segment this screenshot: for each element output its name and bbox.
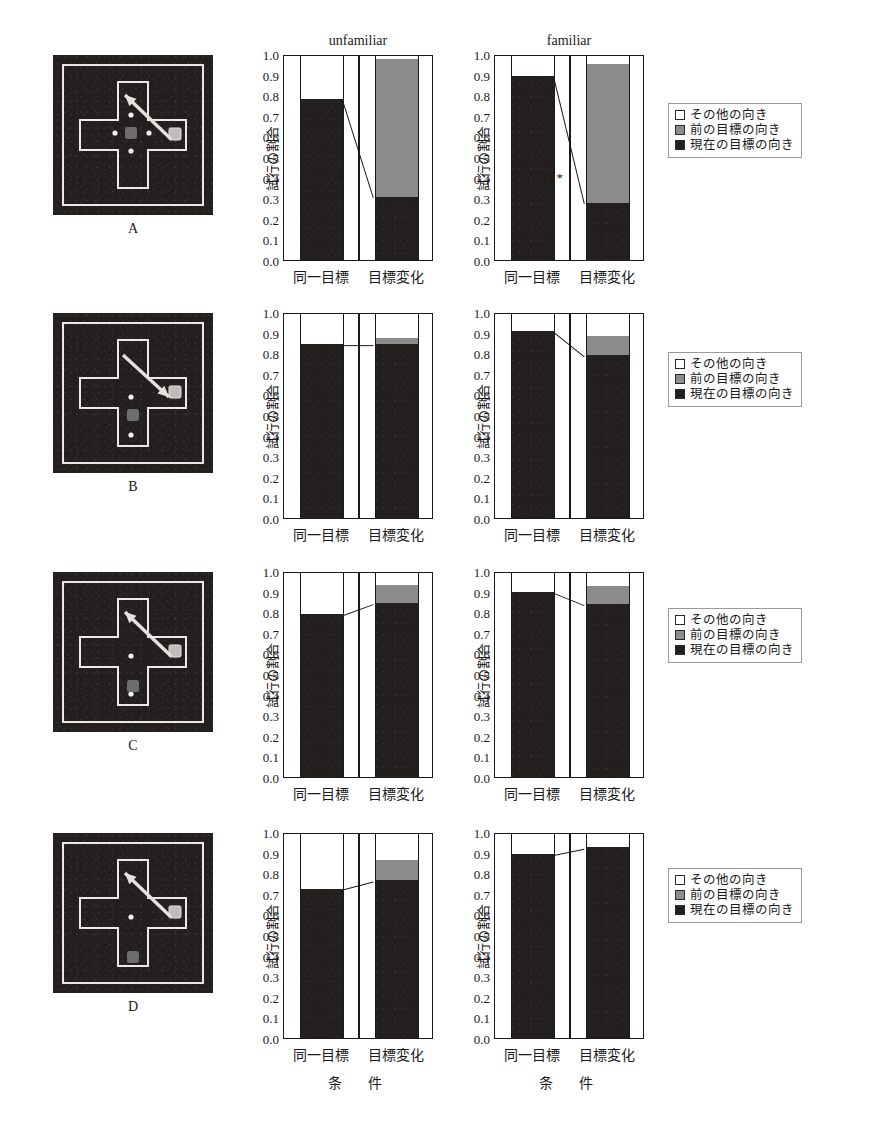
legend-label: 現在の目標の向き [690,138,794,153]
stacked-bar [300,55,344,260]
y-tick-label: 0.3 [263,451,279,464]
food-dot [128,691,133,696]
y-tick-label: 0.4 [263,950,279,963]
stacked-bar [375,313,419,518]
maze-panel-D: D [48,833,218,1015]
bar-outline [586,313,630,518]
group-divider [569,56,571,260]
y-tick-label: 0.9 [474,586,490,599]
y-tick-label: 0.8 [474,90,490,103]
legend-swatch-previous [675,374,685,384]
y-tick-label: 0.2 [263,730,279,743]
stacked-bar [300,572,344,777]
y-tick-label: 0.2 [474,991,490,1004]
y-tick-label: 1.0 [263,307,279,320]
x-tick-label: 目標変化 [579,261,635,286]
stacked-bar [586,572,630,777]
legend-swatch-previous [675,125,685,135]
legend-label: 現在の目標の向き [690,643,794,658]
legend-item: その他の向き [675,357,794,372]
y-tick-label: 0.4 [263,172,279,185]
direction-arrow [125,612,171,656]
maze-panel-label-A: A [48,221,218,237]
chart-B-unfamiliar: 試行の割合0.00.10.20.30.40.50.60.70.80.91.0同一… [283,313,433,519]
y-tick-label: 0.7 [263,627,279,640]
chart-C-familiar: 試行の割合0.00.10.20.30.40.50.60.70.80.91.0同一… [494,572,644,778]
x-tick-label: 同一目標 [504,778,560,803]
y-tick-label: 0.8 [474,607,490,620]
y-tick-label: 0.1 [263,751,279,764]
legend-item: 前の目標の向き [675,888,794,903]
direction-arrow [125,873,171,917]
bar-outline [511,313,555,518]
figure-page: ABCDunfamiliar試行の割合0.00.10.20.30.40.50.6… [0,0,869,1124]
group-divider [358,834,360,1038]
goal-box-marker [169,386,181,398]
y-tick-label: 1.0 [263,49,279,62]
y-tick-label: 0.6 [263,389,279,402]
y-tick-label: 0.7 [263,110,279,123]
food-dot [128,914,133,919]
stacked-bar [375,572,419,777]
legend-item: 前の目標の向き [675,123,794,138]
legend-swatch-other [675,875,685,885]
y-tick-label: 0.2 [263,471,279,484]
chart-A-unfamiliar: unfamiliar試行の割合0.00.10.20.30.40.50.60.70… [283,55,433,261]
bar-outline [511,55,555,260]
bar-outline [300,55,344,260]
y-tick-label: 0.0 [474,255,490,268]
y-axis-ticks: 0.00.10.20.30.40.50.60.70.80.91.0 [253,313,281,519]
y-tick-label: 0.0 [474,1033,490,1046]
y-tick-label: 0.8 [474,348,490,361]
start-box-marker [125,127,137,139]
legend-item: 現在の目標の向き [675,643,794,658]
start-box-marker [127,951,139,963]
stacked-bar [511,313,555,518]
y-tick-label: 0.0 [263,772,279,785]
y-tick-label: 0.2 [263,991,279,1004]
y-tick-label: 0.0 [263,255,279,268]
y-axis-ticks: 0.00.10.20.30.40.50.60.70.80.91.0 [464,572,492,778]
y-axis-ticks: 0.00.10.20.30.40.50.60.70.80.91.0 [253,572,281,778]
legend-swatch-other [675,615,685,625]
stacked-bar [300,313,344,518]
y-tick-label: 0.5 [474,930,490,943]
y-tick-label: 0.1 [474,1012,490,1025]
maze-panel-label-C: C [48,738,218,754]
y-tick-label: 1.0 [474,307,490,320]
x-tick-label: 同一目標 [504,261,560,286]
maze-arena-C [53,572,213,732]
bar-outline [586,55,630,260]
bar-outline [586,572,630,777]
y-tick-label: 0.0 [263,1033,279,1046]
y-tick-label: 0.8 [263,607,279,620]
y-tick-label: 0.9 [474,69,490,82]
y-tick-label: 0.6 [474,131,490,144]
legend-item: その他の向き [675,873,794,888]
chart-D-familiar: 試行の割合0.00.10.20.30.40.50.60.70.80.91.0同一… [494,833,644,1039]
y-tick-label: 0.8 [474,868,490,881]
y-tick-label: 0.5 [474,669,490,682]
y-tick-label: 0.7 [474,627,490,640]
group-divider [569,314,571,518]
maze-markers-C [53,572,213,732]
y-tick-label: 0.6 [474,648,490,661]
chart-B-familiar: 試行の割合0.00.10.20.30.40.50.60.70.80.91.0同一… [494,313,644,519]
chart-C-unfamiliar: 試行の割合0.00.10.20.30.40.50.60.70.80.91.0同一… [283,572,433,778]
x-tick-label: 目標変化 [579,519,635,544]
y-tick-label: 0.8 [263,90,279,103]
bar-outline [300,833,344,1038]
y-axis-ticks: 0.00.10.20.30.40.50.60.70.80.91.0 [464,55,492,261]
legend-swatch-current [675,645,685,655]
stacked-bar [511,833,555,1038]
y-axis-ticks: 0.00.10.20.30.40.50.60.70.80.91.0 [253,55,281,261]
legend-label: その他の向き [690,873,768,888]
y-tick-label: 0.1 [474,751,490,764]
x-axis-label: 条 件 [494,1072,644,1092]
y-tick-label: 0.0 [474,772,490,785]
y-tick-label: 0.5 [263,930,279,943]
stacked-bar [300,833,344,1038]
y-axis-ticks: 0.00.10.20.30.40.50.60.70.80.91.0 [253,833,281,1039]
x-tick-label: 目標変化 [368,778,424,803]
y-tick-label: 0.7 [263,368,279,381]
